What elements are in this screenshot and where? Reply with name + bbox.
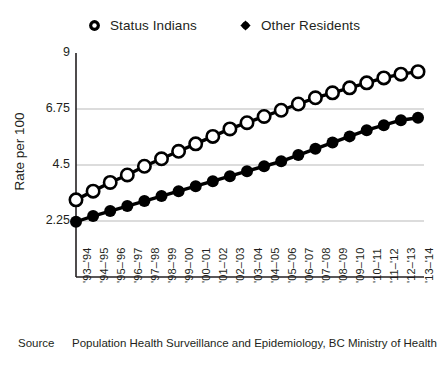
source-label: Source (18, 337, 54, 349)
source-text: Population Health Surveillance and Epide… (72, 337, 437, 349)
data-series-layer (70, 65, 424, 227)
plot-area (0, 0, 448, 365)
line-chart: Rate per 100 2.254.56.759 '93–'94'94–'95… (0, 0, 448, 365)
